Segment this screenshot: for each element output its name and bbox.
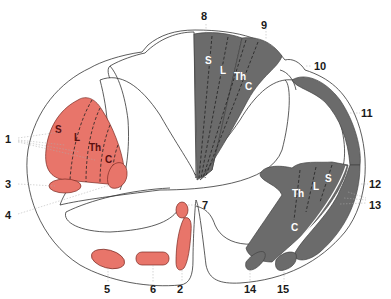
tract-13-label-c: C (291, 222, 298, 233)
label-15: 15 (277, 283, 289, 295)
diagram-canvas: S L Th C S L Th C S L Th C 1 3 4 5 6 2 7… (0, 0, 391, 299)
label-3: 3 (5, 178, 11, 190)
spinal-cord-diagram: S L Th C S L Th C S L Th C 1 3 4 5 6 2 7… (0, 0, 391, 299)
label-8: 8 (201, 10, 207, 22)
tract-8-label-l: L (220, 65, 226, 76)
label-2: 2 (177, 283, 183, 295)
tract-9-label-c: C (245, 81, 252, 92)
label-7: 7 (202, 199, 208, 211)
label-1: 1 (5, 133, 11, 145)
label-13: 13 (369, 199, 381, 211)
tract-6 (136, 252, 169, 265)
tract-1-label-c: C (105, 154, 112, 165)
label-9: 9 (261, 19, 267, 31)
tract-13-label-th: Th (292, 188, 304, 199)
tract-1-label-th: Th (89, 142, 101, 153)
tract-7 (176, 202, 188, 218)
label-10: 10 (314, 60, 326, 72)
label-14: 14 (244, 283, 257, 295)
tract-1-label-s: S (55, 124, 62, 135)
label-5: 5 (104, 283, 110, 295)
label-12: 12 (369, 178, 381, 190)
tract-1-label-l: L (74, 132, 80, 143)
tract-3 (49, 179, 81, 193)
label-6: 6 (150, 283, 156, 295)
tract-8-label-s: S (205, 55, 212, 66)
label-11: 11 (361, 107, 373, 119)
tract-13-label-l: L (313, 181, 319, 192)
label-4: 4 (5, 209, 12, 221)
tract-13-label-s: S (325, 173, 332, 184)
